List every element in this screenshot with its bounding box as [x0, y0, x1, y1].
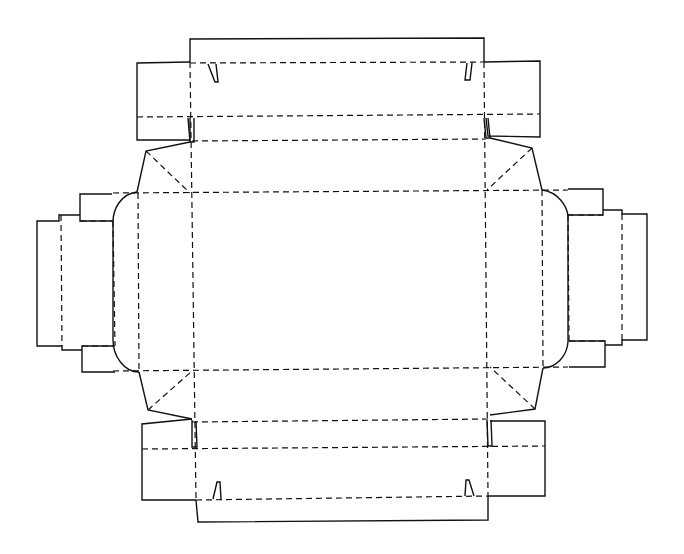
- box-dieline-diagram: [0, 0, 684, 554]
- background: [0, 0, 684, 554]
